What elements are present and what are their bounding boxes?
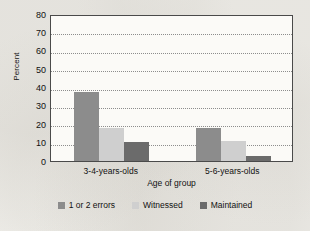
y-tick-label: 20 <box>26 121 46 130</box>
legend-item: Witnessed <box>132 200 183 210</box>
y-axis-tick-labels: 01020304050607080 <box>22 0 46 231</box>
bars-layer <box>51 16 292 161</box>
bar-1-or-2-errors-5-6-years-olds <box>196 128 221 161</box>
y-tick-label: 40 <box>26 84 46 93</box>
x-tick-label: 5-6-years-olds <box>187 166 277 176</box>
bar-maintained-3-4-years-olds <box>124 142 149 161</box>
bar-maintained-5-6-years-olds <box>246 156 271 162</box>
y-tick-label: 0 <box>26 158 46 167</box>
y-tick-label: 30 <box>26 102 46 111</box>
bar-chart: Percent 01020304050607080 3-4-years-olds… <box>0 0 310 231</box>
x-axis-title: Age of group <box>50 178 293 188</box>
y-tick-label: 70 <box>26 29 46 38</box>
x-tick-label: 3-4-years-olds <box>66 166 156 176</box>
legend-label: 1 or 2 errors <box>69 200 115 210</box>
legend-label: Witnessed <box>143 200 183 210</box>
y-tick-label: 60 <box>26 47 46 56</box>
legend-label: Maintained <box>211 200 253 210</box>
bar-1-or-2-errors-3-4-years-olds <box>74 92 99 161</box>
legend-swatch-icon <box>132 202 139 209</box>
legend-item: 1 or 2 errors <box>58 200 115 210</box>
y-tick-label: 80 <box>26 11 46 20</box>
legend-item: Maintained <box>200 200 253 210</box>
plot-area <box>50 15 293 162</box>
bar-witnessed-3-4-years-olds <box>99 128 124 161</box>
legend-swatch-icon <box>200 202 207 209</box>
y-axis-title: Percent <box>12 34 21 100</box>
bar-witnessed-5-6-years-olds <box>221 141 246 161</box>
y-tick-label: 50 <box>26 66 46 75</box>
legend-swatch-icon <box>58 202 65 209</box>
chart-legend: 1 or 2 errorsWitnessedMaintained <box>0 200 310 210</box>
y-tick-label: 10 <box>26 139 46 148</box>
